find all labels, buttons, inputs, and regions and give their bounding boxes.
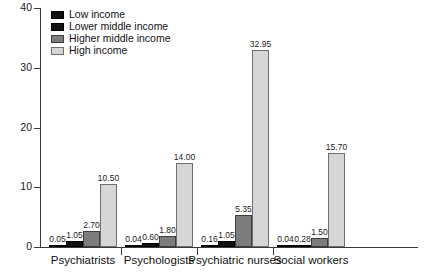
bar-chart: 010203040 0.051.052.7010.500.040.601.801… [0,0,425,277]
chart-legend: Low incomeLower middle incomeHigher midd… [51,9,171,57]
bar [176,163,193,247]
bar [49,245,66,247]
bar [66,241,83,247]
bar [125,245,142,247]
legend-label: High income [69,45,127,56]
legend-item: High income [51,45,171,56]
y-tick-label: 20 [4,122,32,132]
legend-swatch-icon [51,11,64,19]
bar-value-label: 32.95 [246,40,275,49]
bar [218,241,235,247]
legend-label: Higher middle income [69,33,171,44]
bar [328,153,345,247]
x-axis-line [40,247,418,248]
bar [83,231,100,247]
legend-swatch-icon [51,35,64,43]
legend-item: Lower middle income [51,21,171,32]
legend-label: Lower middle income [69,21,168,32]
y-tick-label: 40 [4,2,32,12]
bar-value-label: 10.50 [94,174,123,183]
bar [159,236,176,247]
y-tick-label: 10 [4,181,32,191]
bar [311,238,328,247]
bar [252,50,269,247]
bar [294,245,311,247]
legend-swatch-icon [51,47,64,55]
bar [277,245,294,247]
legend-label: Low income [69,9,125,20]
y-tick-0 [34,247,40,248]
bar-value-label: 15.70 [322,143,351,152]
category-label: Social workers [251,254,371,266]
legend-item: Higher middle income [51,33,171,44]
y-tick-label: 0 [4,241,32,251]
bar [100,184,117,247]
bar [201,245,218,247]
bar [142,243,159,247]
bar-value-label: 14.00 [170,153,199,162]
bar [235,215,252,247]
y-tick-label: 30 [4,62,32,72]
legend-item: Low income [51,9,171,20]
legend-swatch-icon [51,23,64,31]
